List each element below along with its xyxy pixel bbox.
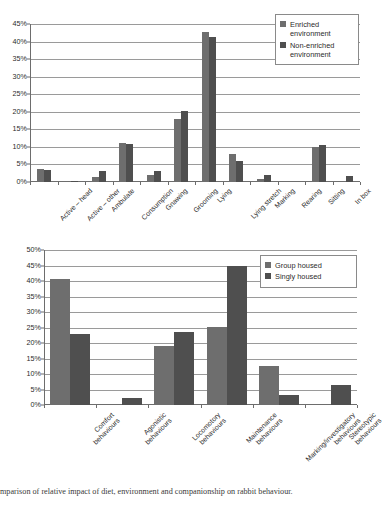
x-axis-tick-mark (201, 405, 202, 408)
y-axis-tick-label: 40% (27, 277, 41, 284)
gridline (30, 164, 360, 165)
y-axis-tick-label: 10% (13, 143, 27, 150)
y-axis-tick-label: 15% (13, 126, 27, 133)
bar (209, 37, 216, 182)
gridline (30, 129, 360, 130)
x-axis-tick-label: Agonisticbehaviours (138, 411, 173, 446)
bar (331, 385, 351, 405)
bar (227, 266, 247, 405)
gridline (44, 250, 357, 251)
y-axis-tick-label: 35% (27, 293, 41, 300)
bar (99, 171, 106, 182)
x-axis-tick-mark (168, 182, 169, 185)
bar (174, 119, 181, 182)
bar (236, 161, 243, 182)
bar (71, 181, 78, 182)
bar (181, 111, 188, 182)
x-axis-tick-mark (250, 182, 251, 185)
legend-label: Singly housed (275, 272, 321, 281)
legend-bottom: Group housed Singly housed (260, 255, 357, 288)
bar (284, 181, 291, 182)
bar (119, 143, 126, 182)
legend-item: Singly housed (265, 272, 351, 281)
bar (37, 169, 44, 182)
y-axis-tick-label: 15% (27, 355, 41, 362)
x-axis-tick-mark (58, 182, 59, 185)
y-axis-tick-label: 40% (13, 38, 27, 45)
legend-swatch-icon (280, 21, 286, 27)
bar (202, 32, 209, 182)
y-axis (44, 250, 45, 405)
x-axis-tick-mark (85, 182, 86, 185)
y-axis-tick-label: 35% (13, 56, 27, 63)
x-axis-tick-mark (148, 405, 149, 408)
x-axis-tick-mark (305, 182, 306, 185)
chart-environment-comparison: 0%5%10%15%20%25%30%35%40%45%Active – hea… (0, 0, 363, 240)
x-axis-tick-mark (357, 405, 358, 408)
legend-swatch-icon (265, 273, 271, 279)
bar (279, 395, 299, 405)
gridline (44, 297, 357, 298)
y-axis-tick-label: 30% (27, 308, 41, 315)
x-axis-tick-label: Comfortbehaviours (86, 411, 121, 446)
x-axis-tick-mark (195, 182, 196, 185)
y-axis-tick-label: 10% (27, 370, 41, 377)
figure-caption: mparison of relative impact of diet, env… (0, 487, 363, 497)
x-axis-tick-mark (253, 405, 254, 408)
gridline (44, 328, 357, 329)
x-axis-tick-mark (44, 405, 45, 408)
y-axis-tick-label: 45% (13, 20, 27, 27)
bar (154, 171, 161, 182)
bar (44, 170, 51, 182)
bar (257, 179, 264, 183)
gridline (30, 112, 360, 113)
legend-item: Enriched environment (280, 20, 353, 39)
y-axis-tick-label: 0% (17, 178, 27, 185)
y-axis-tick-label: 25% (27, 324, 41, 331)
x-axis-tick-mark (305, 405, 306, 408)
bar (229, 154, 236, 182)
bar (174, 332, 194, 405)
legend-swatch-icon (265, 262, 271, 268)
bar (92, 177, 99, 182)
y-axis-tick-label: 20% (27, 339, 41, 346)
legend-item: Non-enriched environment (280, 41, 353, 60)
bar (122, 398, 142, 405)
bar (126, 144, 133, 182)
bar (259, 366, 279, 405)
gridline (30, 94, 360, 95)
bar (312, 147, 319, 182)
y-axis-tick-label: 50% (27, 246, 41, 253)
legend-label: Non-enriched environment (290, 41, 353, 60)
bar (147, 175, 154, 182)
x-axis-tick-mark (360, 182, 361, 185)
x-axis-tick-label: Lying (216, 187, 233, 204)
bar (346, 176, 353, 182)
x-axis-tick-label: Rearing (300, 187, 323, 210)
bar (70, 334, 90, 405)
gridline (30, 147, 360, 148)
x-axis-tick-mark (140, 182, 141, 185)
gridline (44, 359, 357, 360)
y-axis-tick-label: 25% (13, 91, 27, 98)
legend-top: Enriched environment Non-enriched enviro… (275, 14, 359, 65)
x-axis-tick-mark (278, 182, 279, 185)
gridline (44, 343, 357, 344)
legend-label: Enriched environment (290, 20, 353, 39)
x-axis-tick-label: Sitting (326, 187, 345, 206)
y-axis-tick-label: 0% (31, 401, 41, 408)
y-axis-tick-label: 30% (13, 73, 27, 80)
y-axis (30, 24, 31, 182)
chart-housing-comparison: 0%5%10%15%20%25%30%35%40%45%50%Comfortbe… (0, 240, 363, 487)
gridline (44, 312, 357, 313)
gridline (30, 77, 360, 78)
legend-item: Group housed (265, 261, 351, 270)
x-axis-tick-label: Locomotorybehaviours (191, 411, 228, 448)
x-axis-tick-mark (30, 182, 31, 185)
gridline (44, 390, 357, 391)
gridline (44, 374, 357, 375)
y-axis-tick-label: 5% (31, 386, 41, 393)
x-axis-tick-mark (113, 182, 114, 185)
bar (207, 327, 227, 405)
